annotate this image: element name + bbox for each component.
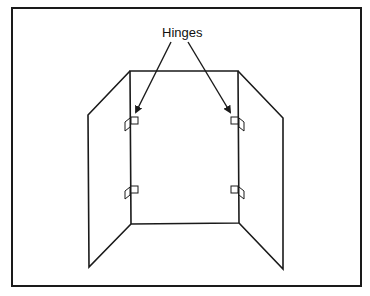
folding-screen-diagram — [0, 0, 370, 296]
arrow-icon-right — [188, 42, 230, 112]
hinge-icon-right-upper — [231, 117, 244, 131]
left-panel — [88, 71, 131, 267]
hinge-icon-right-lower — [231, 186, 244, 199]
arrow-icon-left — [136, 42, 171, 112]
hinges-label: Hinges — [162, 25, 202, 40]
hinge-icon-left-upper — [125, 117, 138, 131]
center-panel — [130, 71, 239, 224]
right-panel — [238, 71, 283, 269]
